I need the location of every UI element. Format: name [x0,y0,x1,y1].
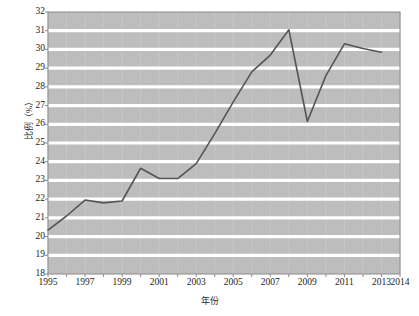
x-tick-label: 2001 [150,278,169,288]
y-tick-label: 30 [25,45,45,55]
y-tick-label: 20 [25,232,45,242]
x-tick-label: 2014 [391,278,410,288]
y-axis-title: 比例（%） [22,79,35,159]
y-tick-label: 19 [25,251,45,261]
x-tick-label: 1995 [39,278,58,288]
x-tick-label: 2009 [298,278,317,288]
x-tick-label: 2005 [224,278,243,288]
y-tick-label: 32 [25,7,45,17]
line-chart: 181920212223242526272829303132 199519971… [0,0,419,316]
y-tick-label: 29 [25,63,45,73]
y-tick-label: 22 [25,194,45,204]
x-tick-label: 2007 [261,278,280,288]
x-tick-label: 1997 [76,278,95,288]
y-tick-label: 21 [25,213,45,223]
x-tick-label: 1999 [113,278,132,288]
x-tick-label: 2003 [187,278,206,288]
chart-canvas [0,0,419,316]
y-tick-label: 31 [25,26,45,36]
x-tick-label: 2013 [372,278,391,288]
x-tick-label: 2011 [335,278,354,288]
x-axis-title: 年份 [0,294,419,307]
y-tick-label: 23 [25,176,45,186]
x-axis-tick-labels: 1995199719992001200320052007200920112013… [0,278,419,294]
